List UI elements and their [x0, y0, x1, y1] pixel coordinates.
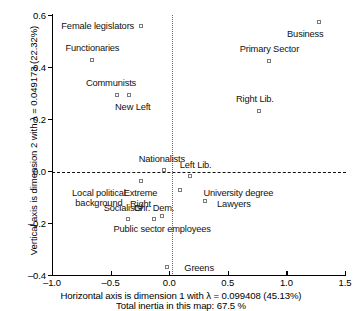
- data-point-marker: [126, 217, 130, 221]
- y-axis-ticks: 0.60.40.20.0–0.2–0.4: [0, 0, 46, 311]
- data-point-marker: [203, 199, 207, 203]
- data-point-marker: [267, 59, 271, 63]
- data-point-marker: [317, 20, 321, 24]
- data-point-label: Public sector employees: [114, 224, 211, 234]
- data-point-label: Business: [287, 29, 324, 39]
- data-point-marker: [165, 265, 169, 269]
- data-point-label: New Left: [115, 102, 151, 112]
- data-point-label: University degree: [203, 188, 273, 198]
- x-tick-mark: [228, 271, 229, 276]
- data-point-marker: [188, 174, 192, 178]
- total-inertia-caption: Total inertia in this map: 67.5 %: [0, 300, 362, 311]
- x-tick-mark: [111, 271, 112, 276]
- y-tick-label: –0.4: [28, 270, 46, 281]
- data-point-label: Primary Sector: [240, 44, 299, 54]
- x-tick-mark: [286, 271, 287, 276]
- data-point-label: Nationalists: [139, 154, 185, 164]
- x-tick-label: 1.5: [339, 277, 352, 288]
- data-point-label: Left Lib.: [180, 160, 212, 170]
- data-point-marker: [139, 179, 143, 183]
- y-axis-line: [52, 14, 53, 276]
- data-point-marker: [139, 24, 143, 28]
- x-tick-label: 0.5: [221, 277, 234, 288]
- data-point-marker: [257, 109, 261, 113]
- y-tick-mark: [48, 171, 53, 172]
- data-point-marker: [127, 93, 131, 97]
- y-axis-title: Vertical axis is dimension 2 with λ = 0.…: [28, 16, 39, 266]
- data-point-label: Right Lib.: [236, 94, 274, 104]
- data-point-marker: [160, 214, 164, 218]
- x-axis-line: [52, 275, 346, 276]
- data-point-marker: [90, 58, 94, 62]
- x-tick-mark: [169, 271, 170, 276]
- data-point-marker: [162, 168, 166, 172]
- x-tick-label: –0.5: [102, 277, 120, 288]
- y-tick-mark: [48, 15, 53, 16]
- plot-area: [52, 15, 345, 275]
- data-point-marker: [115, 93, 119, 97]
- x-tick-mark: [345, 271, 346, 276]
- y-tick-mark: [48, 119, 53, 120]
- y-tick-mark: [48, 275, 53, 276]
- data-point-label: Lawyers: [217, 199, 251, 209]
- correspondence-analysis-scatter-chart: –1.0–0.50.00.51.01.5 0.60.40.20.0–0.2–0.…: [0, 0, 362, 311]
- y-tick-mark: [48, 223, 53, 224]
- x-tick-label: 1.0: [280, 277, 293, 288]
- y-tick-mark: [48, 67, 53, 68]
- x-tick-label: 0.0: [163, 277, 176, 288]
- data-point-label: Greens: [184, 263, 214, 273]
- data-point-marker: [152, 217, 156, 221]
- data-point-label: Female legislators: [61, 21, 134, 31]
- data-point-label: Chr. Dem.: [134, 203, 175, 213]
- zero-reference-line-horizontal: [52, 172, 346, 173]
- data-point-label: Communists: [86, 78, 136, 88]
- data-point-label: Functionaries: [65, 43, 119, 53]
- data-point-marker: [178, 188, 182, 192]
- zero-reference-line-vertical: [172, 15, 173, 276]
